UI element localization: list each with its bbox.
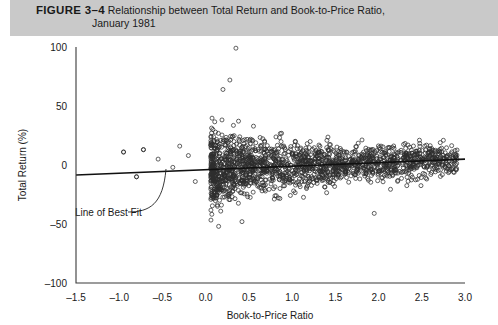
scatter-point bbox=[246, 195, 250, 199]
y-tick-label: 100 bbox=[50, 42, 67, 53]
scatter-point bbox=[220, 118, 224, 122]
scatter-point bbox=[178, 144, 182, 148]
scatter-point bbox=[288, 193, 292, 197]
scatter-point bbox=[238, 135, 242, 139]
scatter-point bbox=[405, 184, 409, 188]
axis-spines bbox=[76, 47, 465, 283]
y-tick-label: –50 bbox=[50, 219, 67, 230]
scatter-point bbox=[405, 175, 409, 179]
scatter-point bbox=[356, 141, 360, 145]
scatter-point bbox=[289, 145, 293, 149]
scatter-point bbox=[213, 120, 217, 124]
scatter-point bbox=[445, 146, 449, 150]
x-tick-label: 1.5 bbox=[328, 292, 342, 303]
x-tick-label: –1.5 bbox=[66, 292, 86, 303]
scatter-point bbox=[360, 138, 364, 142]
scatter-point bbox=[318, 144, 322, 148]
figure-caption: FIGURE 3–4 Relationship between Total Re… bbox=[36, 4, 486, 30]
scatter-point bbox=[210, 212, 214, 216]
scatter-point bbox=[231, 123, 235, 127]
scatter-point bbox=[217, 224, 221, 228]
scatter-point bbox=[209, 208, 213, 212]
x-axis-tick-labels: –1.5–1.0–0.50.00.51.01.52.02.53.0 bbox=[66, 292, 472, 303]
scatter-point bbox=[298, 147, 302, 151]
scatter-point bbox=[438, 141, 442, 145]
scatter-point bbox=[389, 187, 393, 191]
scatter-point bbox=[424, 176, 428, 180]
figure-caption-band: FIGURE 3–4 Relationship between Total Re… bbox=[10, 0, 498, 36]
y-tick-label: –100 bbox=[45, 278, 68, 289]
scatter-point bbox=[242, 192, 246, 196]
scatter-markers bbox=[122, 46, 460, 228]
scatter-plot: Line of Best Fit –100–50050100 –1.5–1.0–… bbox=[0, 36, 498, 325]
scatter-point bbox=[218, 198, 222, 202]
scatter-point bbox=[425, 177, 429, 181]
scatter-point bbox=[171, 165, 175, 169]
scatter-point bbox=[228, 78, 232, 82]
scatter-point bbox=[267, 187, 271, 191]
x-tick-label: 1.0 bbox=[285, 292, 299, 303]
scatter-point bbox=[419, 184, 423, 188]
scatter-point bbox=[219, 203, 223, 207]
x-axis-title: Book-to-Price Ratio bbox=[227, 310, 314, 321]
scatter-point bbox=[358, 177, 362, 181]
scatter-point bbox=[221, 87, 225, 91]
x-tick-label: 0.0 bbox=[199, 292, 213, 303]
scatter-point bbox=[376, 179, 380, 183]
scatter-point bbox=[279, 140, 283, 144]
scatter-point bbox=[135, 175, 139, 179]
scatter-point bbox=[234, 46, 238, 50]
scatter-point bbox=[210, 116, 214, 120]
scatter-point bbox=[122, 150, 126, 154]
scatter-point bbox=[141, 148, 145, 152]
scatter-point bbox=[251, 190, 255, 194]
x-tick-label: –1.0 bbox=[109, 292, 129, 303]
annotation-leader-line bbox=[128, 169, 166, 212]
scatter-point bbox=[372, 211, 376, 215]
scatter-point bbox=[309, 183, 313, 187]
y-tick-label: 50 bbox=[56, 101, 68, 112]
scatter-point bbox=[325, 191, 329, 195]
x-tick-label: 2.0 bbox=[372, 292, 386, 303]
x-tick-label: 3.0 bbox=[458, 292, 472, 303]
scatter-point bbox=[156, 157, 160, 161]
scatter-point bbox=[411, 144, 415, 148]
y-tick-label: 0 bbox=[61, 160, 67, 171]
scatter-point bbox=[236, 201, 240, 205]
scatter-point bbox=[193, 180, 197, 184]
scatter-point bbox=[305, 142, 309, 146]
scatter-point bbox=[219, 209, 223, 213]
scatter-point bbox=[240, 220, 244, 224]
plot-area: Line of Best Fit –100–50050100 –1.5–1.0–… bbox=[0, 36, 498, 325]
caption-line-2: January 1981 bbox=[92, 17, 486, 30]
scatter-point bbox=[210, 204, 214, 208]
scatter-point bbox=[251, 124, 255, 128]
scatter-point bbox=[450, 144, 454, 148]
scatter-point bbox=[233, 197, 237, 201]
scatter-point bbox=[381, 180, 385, 184]
scatter-point bbox=[347, 180, 351, 184]
x-tick-label: –0.5 bbox=[153, 292, 173, 303]
figure-title-text: Relationship between Total Return and Bo… bbox=[108, 4, 385, 16]
line-of-best-fit-label: Line of Best Fit bbox=[75, 207, 142, 218]
x-tick-label: 2.5 bbox=[415, 292, 429, 303]
scatter-point bbox=[209, 218, 213, 222]
scatter-point bbox=[186, 154, 190, 158]
caption-line-1: FIGURE 3–4 Relationship between Total Re… bbox=[36, 4, 486, 17]
figure-number-label: FIGURE 3–4 bbox=[36, 4, 105, 16]
x-tick-label: 0.5 bbox=[242, 292, 256, 303]
scatter-point bbox=[237, 119, 241, 123]
scatter-point bbox=[301, 195, 305, 199]
y-axis-title: Total Return (%) bbox=[17, 129, 28, 201]
y-axis-tick-labels: –100–50050100 bbox=[45, 42, 68, 289]
figure-container: FIGURE 3–4 Relationship between Total Re… bbox=[0, 0, 498, 325]
